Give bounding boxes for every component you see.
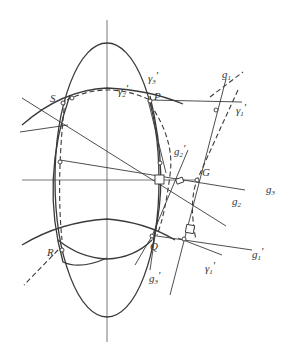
line-Q-g1prime bbox=[150, 235, 252, 250]
point-P bbox=[148, 99, 152, 103]
label-gamma2: γ2′ bbox=[118, 82, 129, 99]
point-gamma1-intersection bbox=[214, 108, 218, 112]
line-g3 bbox=[60, 160, 245, 190]
right-angle-marker-center bbox=[155, 175, 164, 184]
point-left-mid bbox=[58, 160, 62, 164]
label-S: S bbox=[50, 92, 56, 104]
label-g3-prime: g3′ bbox=[149, 269, 161, 286]
label-g1-prime: g1′ bbox=[252, 245, 264, 262]
line-g2prime bbox=[152, 150, 188, 236]
label-g2: g2 bbox=[232, 195, 242, 209]
label-P: P bbox=[153, 90, 161, 102]
right-angle-marker-lower bbox=[185, 224, 194, 233]
dashed-gamma1-upper bbox=[192, 90, 238, 240]
label-R: R bbox=[46, 246, 54, 258]
curve-lower-bowl bbox=[58, 240, 152, 259]
right-angle-marker-G bbox=[176, 177, 184, 184]
point-upper-left-arc bbox=[70, 96, 74, 100]
point-center-right bbox=[158, 161, 162, 165]
label-g2-prime: g2′ bbox=[174, 142, 186, 159]
point-G bbox=[195, 178, 199, 182]
label-gamma3: γ3′ bbox=[148, 69, 159, 86]
label-G: G bbox=[202, 166, 210, 178]
line-g2 bbox=[22, 98, 226, 226]
label-Q: Q bbox=[150, 240, 158, 252]
geometry-diagram: S P R Q G γ2′ γ3′ γ1′ γ1′ g1 g2 g3 g1′ g… bbox=[0, 0, 290, 355]
label-g1: g1 bbox=[222, 68, 231, 82]
point-R bbox=[60, 248, 64, 252]
line-vertical-through-P bbox=[148, 100, 166, 173]
point-S bbox=[61, 101, 65, 105]
label-g3: g3 bbox=[266, 183, 276, 197]
label-gamma1-upper: γ1′ bbox=[236, 101, 247, 118]
label-gamma1-lower: γ1′ bbox=[205, 259, 216, 276]
point-lower-right bbox=[182, 237, 186, 241]
line-PG1 bbox=[150, 100, 242, 102]
point-Q bbox=[150, 234, 154, 238]
